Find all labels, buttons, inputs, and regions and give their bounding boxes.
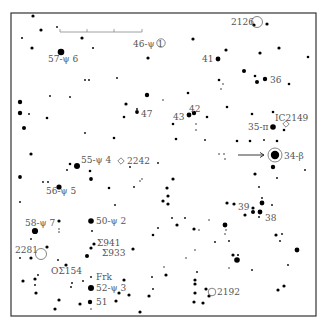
star-label: Frk: [96, 272, 113, 282]
star: [124, 102, 127, 105]
star: [131, 247, 134, 250]
star: [31, 14, 34, 17]
star: [187, 92, 190, 95]
star: [123, 116, 126, 119]
star: [225, 201, 228, 204]
star: [192, 300, 195, 303]
star: [192, 227, 195, 230]
star: [206, 116, 209, 119]
star: [196, 271, 198, 273]
star: [88, 300, 92, 304]
star: [138, 310, 141, 313]
star-chart: 57-ψ 646-ψ 121264136474243IC214935-π34-β…: [0, 0, 323, 325]
star-label: 43: [173, 112, 185, 122]
star-label: IC2149: [275, 113, 309, 123]
star: [133, 186, 135, 188]
star: [34, 291, 37, 294]
star: [49, 95, 51, 97]
star: [157, 227, 159, 229]
star-label: 2192: [217, 287, 240, 297]
star: [195, 123, 196, 124]
star: [88, 218, 94, 224]
star: [307, 56, 310, 59]
star: [29, 256, 32, 259]
star: [127, 293, 130, 296]
star-label: 36: [270, 75, 282, 85]
star: [287, 264, 289, 266]
star: [89, 246, 92, 249]
star: [263, 77, 267, 81]
star: [249, 140, 252, 143]
star: [78, 302, 81, 305]
star: [232, 202, 235, 205]
star-label: OΣ154: [51, 266, 82, 276]
star: [18, 175, 22, 179]
star: [146, 56, 149, 59]
star: [194, 249, 195, 250]
star: [258, 210, 263, 215]
star: [21, 37, 23, 39]
star: [236, 140, 239, 143]
star: [171, 217, 173, 219]
star: [204, 139, 206, 141]
star-label: 38: [265, 213, 277, 223]
star: [33, 277, 36, 280]
star: [164, 273, 167, 276]
star: [116, 77, 118, 79]
star: [147, 294, 150, 297]
star: [231, 253, 234, 256]
star: [39, 28, 42, 31]
star-label: 39: [238, 202, 250, 212]
star: [261, 197, 263, 199]
star: [46, 117, 49, 120]
star: [58, 228, 59, 229]
star: [165, 186, 168, 189]
star: [92, 242, 95, 245]
star: [90, 308, 91, 309]
star: [32, 228, 38, 234]
star: [135, 110, 139, 114]
star: [90, 276, 92, 278]
star: [56, 26, 58, 28]
star: [28, 113, 30, 115]
star: [171, 177, 174, 180]
star: [258, 216, 260, 218]
star-label: 58-ψ 7: [25, 218, 55, 228]
star: [220, 88, 221, 89]
star: [69, 163, 72, 166]
star: [69, 96, 71, 98]
star: [114, 299, 117, 302]
star: [223, 153, 224, 154]
star: [53, 307, 56, 310]
star-label: 57-ψ 6: [48, 54, 78, 64]
star-label: 52-ψ 3: [96, 283, 126, 293]
star: [271, 165, 275, 169]
star-label: 46-ψ 1: [133, 39, 163, 49]
star: [274, 233, 277, 236]
star: [270, 124, 276, 130]
star: [122, 278, 125, 281]
star: [30, 46, 33, 49]
star: [162, 99, 163, 100]
star: [19, 257, 21, 259]
star: [34, 284, 36, 286]
star: [45, 245, 48, 248]
star-label: 2242: [127, 156, 150, 166]
star-label: 47: [141, 109, 153, 119]
star: [234, 257, 240, 263]
star: [47, 181, 49, 183]
star: [272, 111, 275, 114]
star: [208, 219, 209, 220]
star: [276, 177, 278, 179]
star: [283, 129, 286, 132]
star-label: Σ941: [97, 238, 121, 248]
scale-bar: [60, 29, 142, 32]
star: [30, 238, 32, 240]
star: [141, 178, 142, 179]
star: [185, 257, 186, 258]
star: [172, 123, 175, 126]
star: [152, 234, 155, 237]
star: [114, 204, 116, 206]
star: [175, 223, 178, 226]
star: [74, 163, 80, 169]
